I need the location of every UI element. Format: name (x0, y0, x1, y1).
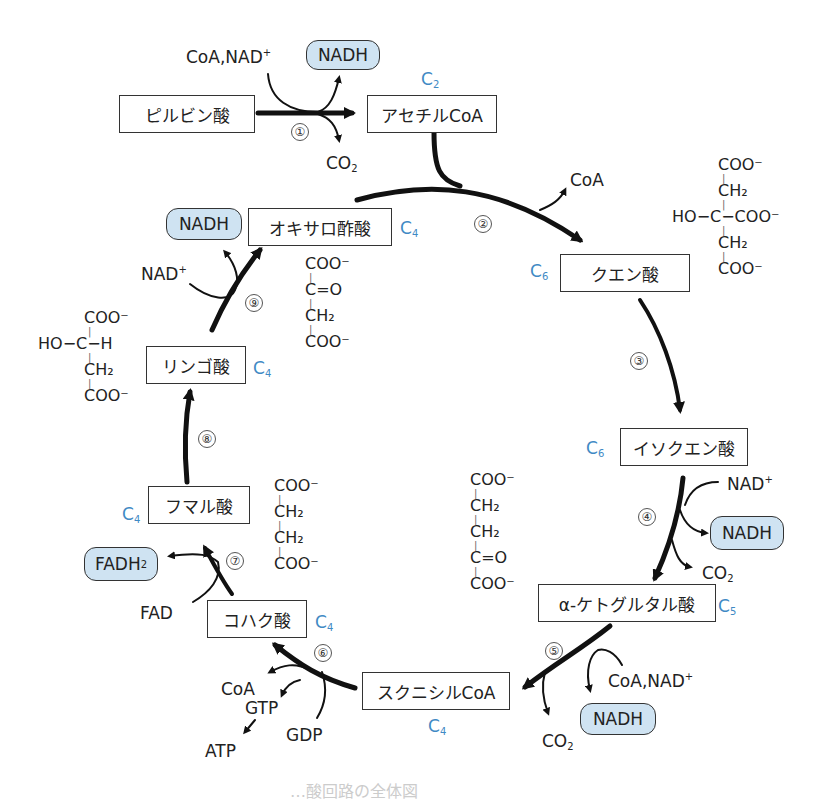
compound-name: フマル酸 (165, 493, 233, 518)
compound-name: クエン酸 (591, 261, 659, 286)
co2-step5: CO2 (542, 733, 574, 752)
step-8-marker: ⑧ (198, 430, 216, 448)
figure-caption: …酸回路の全体図 (290, 778, 418, 802)
carbon-count-succinyl-coa: C4 (428, 718, 446, 737)
carbon-count-acetyl-coa: C2 (421, 71, 439, 90)
step-7-marker: ⑦ (226, 552, 244, 570)
carbon-count-malate: C4 (253, 360, 271, 379)
compound-name: コハク酸 (223, 607, 291, 632)
structure-oxaloacetate: COO⁻ | C=O | CH₂ | COO⁻ (305, 256, 350, 351)
gdp-step6: GDP (286, 727, 323, 744)
step-3-marker: ③ (630, 352, 648, 370)
compound-name: スクニシルCoA (377, 679, 496, 704)
nadh-badge-step4: NADH (710, 516, 784, 550)
compound-succinyl-coa: スクニシルCoA (362, 672, 510, 710)
compound-oxaloacetate: オキサロ酢酸 (248, 208, 392, 246)
compound-alpha-ketoglutarate: α-ケトグルタル酸 (538, 584, 716, 622)
nadh-badge-step9: NADH (166, 208, 242, 240)
co2-step4: CO2 (702, 565, 734, 584)
compound-name: ピルビン酸 (145, 102, 230, 127)
carbon-count-succinate: C4 (315, 614, 333, 633)
step-2-marker: ② (474, 215, 492, 233)
structure-succinate: COO⁻ | CH₂ | CH₂ | COO⁻ (274, 478, 319, 573)
gtp-step6: GTP (245, 700, 278, 717)
fadh2-badge-step7: FADH2 (84, 547, 158, 581)
compound-name: オキサロ酢酸 (269, 215, 371, 240)
step-6-marker: ⑥ (314, 644, 332, 662)
step-9-marker: ⑨ (245, 294, 263, 312)
compound-citrate: クエン酸 (560, 254, 690, 292)
fad-step7: FAD (140, 605, 173, 622)
step-1-marker: ① (291, 123, 309, 141)
coa-nad-step5: CoA,NAD+ (608, 672, 693, 690)
atp-step6: ATP (205, 743, 236, 760)
compound-fumarate: フマル酸 (148, 486, 250, 524)
compound-name: アセチルCoA (381, 102, 483, 127)
compound-name: α-ケトグルタル酸 (559, 591, 695, 616)
co2-step1: CO2 (326, 155, 358, 174)
step-4-marker: ④ (638, 508, 656, 526)
nad-step4: NAD+ (727, 475, 773, 493)
nad-step9: NAD+ (141, 265, 187, 283)
step-5-marker: ⑤ (545, 642, 563, 660)
compound-pyruvate: ピルビン酸 (119, 95, 255, 133)
compound-name: リンゴ酸 (162, 353, 230, 378)
carbon-count-ketoglutarate: C5 (718, 598, 736, 617)
structure-malate: COO⁻ | HO−C−H | CH₂ | COO⁻ (38, 310, 129, 405)
compound-malate: リンゴ酸 (146, 346, 246, 384)
carbon-count-citrate: C6 (530, 263, 548, 282)
compound-succinate: コハク酸 (207, 600, 307, 638)
carbon-count-fumarate: C4 (122, 506, 140, 525)
structure-citrate: COO⁻ | CH₂ | HO−C−COO⁻ | CH₂ | COO⁻ (672, 157, 779, 278)
compound-acetyl-coa: アセチルCoA (367, 95, 497, 133)
compound-isocitrate: イソクエン酸 (620, 428, 748, 466)
nadh-badge-step1: NADH (306, 40, 380, 70)
carbon-count-oxaloacetate: C4 (400, 220, 418, 239)
structure-ketoglutarate: COO⁻ | CH₂ | CH₂ | C=O | COO⁻ (470, 472, 515, 593)
carbon-count-isocitrate: C6 (586, 440, 604, 459)
coa-step2: CoA (570, 172, 604, 189)
coa-step6: CoA (221, 681, 255, 698)
compound-name: イソクエン酸 (633, 435, 735, 460)
cofactor-coa-nad: CoA,NAD+ (186, 48, 271, 66)
nadh-badge-step5: NADH (580, 703, 656, 735)
